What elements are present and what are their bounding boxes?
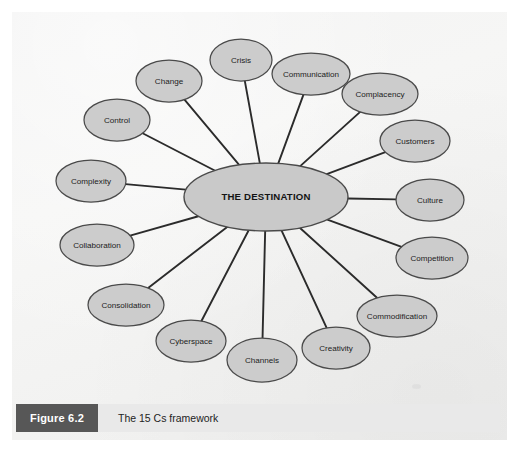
spoke-line-control — [143, 133, 215, 170]
spoke-line-change — [185, 100, 240, 165]
spoke-line-consolidation — [148, 227, 227, 288]
spoke-line-cyberspace — [201, 230, 248, 321]
node-consolidation[interactable]: Consolidation — [88, 284, 164, 326]
node-creativity[interactable]: Creativity — [302, 327, 370, 369]
node-label: Creativity — [319, 344, 354, 353]
node-label: Control — [104, 116, 130, 125]
node-label: Crisis — [231, 56, 251, 65]
figure-number-block: Figure 6.2 — [16, 404, 98, 432]
node-label: Competition — [410, 254, 453, 263]
node-competition[interactable]: Competition — [396, 237, 468, 279]
spoke-line-culture — [348, 198, 396, 199]
spoke-line-competition — [327, 220, 401, 247]
spoke-line-channels — [263, 231, 266, 338]
spoke-line-collaboration — [130, 216, 198, 235]
node-change[interactable]: Change — [136, 60, 202, 102]
node-label: Cyberspace — [169, 337, 213, 346]
spoke-line-commodification — [300, 228, 377, 298]
node-commodification[interactable]: Commodification — [357, 295, 437, 337]
figure-diagram: CrisisCommunicationComplacencyCustomersC… — [0, 0, 519, 400]
node-complexity[interactable]: Complexity — [56, 160, 126, 202]
node-culture[interactable]: Culture — [396, 179, 464, 221]
figure-caption-title: The 15 Cs framework — [98, 404, 500, 432]
figure-caption-bar: Figure 6.2 The 15 Cs framework — [16, 404, 500, 432]
spoke-line-customers — [327, 152, 386, 174]
node-control[interactable]: Control — [84, 99, 150, 141]
node-customers[interactable]: Customers — [380, 120, 450, 162]
node-label: Customers — [395, 137, 434, 146]
hub-label: THE DESTINATION — [221, 191, 310, 202]
node-channels[interactable]: Channels — [227, 338, 297, 382]
node-label: Channels — [245, 356, 279, 365]
node-crisis[interactable]: Crisis — [210, 39, 272, 81]
node-label: Collaboration — [73, 241, 121, 250]
spoke-line-communication — [278, 95, 303, 164]
node-label: Consolidation — [101, 301, 150, 310]
node-communication[interactable]: Communication — [272, 53, 350, 95]
spoke-line-crisis — [245, 81, 260, 163]
node-label: Complacency — [355, 90, 405, 99]
hub-node[interactable]: THE DESTINATION — [184, 163, 348, 231]
node-label: Culture — [417, 196, 444, 205]
node-complacency[interactable]: Complacency — [342, 73, 418, 115]
node-label: Complexity — [71, 177, 112, 186]
node-cyberspace[interactable]: Cyberspace — [156, 320, 226, 362]
radial-diagram-svg: CrisisCommunicationComplacencyCustomersC… — [0, 0, 519, 400]
node-collaboration[interactable]: Collaboration — [60, 224, 134, 266]
node-label: Commodification — [367, 312, 427, 321]
spoke-line-complexity — [126, 184, 186, 190]
node-label: Change — [155, 77, 184, 86]
node-label: Communication — [283, 70, 339, 79]
spoke-line-complacency — [300, 112, 360, 166]
scan-speck — [412, 384, 421, 389]
